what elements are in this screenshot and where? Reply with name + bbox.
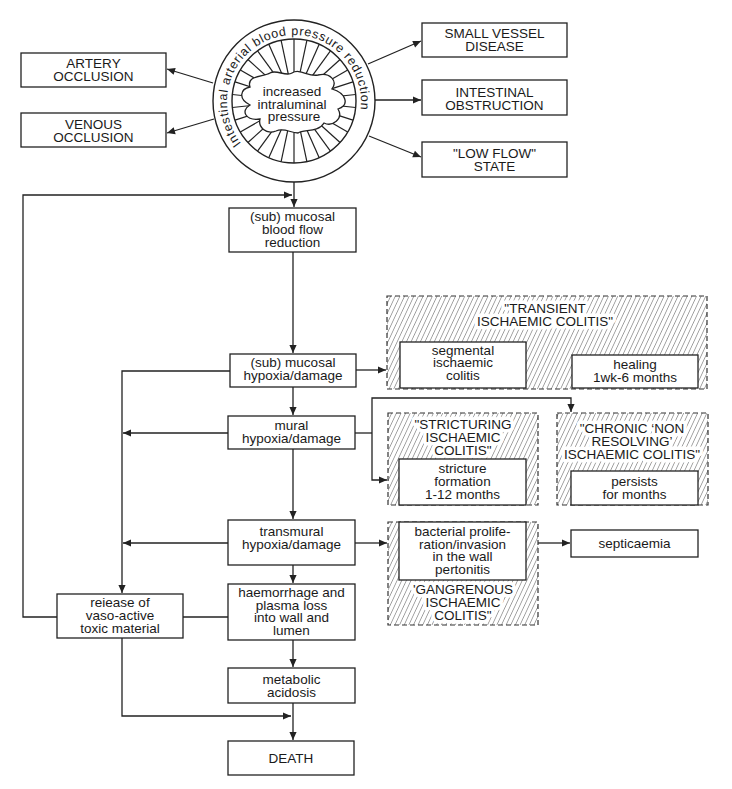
arrow-hypoxia-to-release xyxy=(122,371,230,593)
node-bacterial-proliferation: bacterial prolife-ration/invasionin the … xyxy=(399,522,526,580)
node-mucosal-hypoxia: (sub) mucosalhypoxia/damage xyxy=(230,354,356,387)
node-transmural-hypoxia: transmuralhypoxia/damage xyxy=(228,520,355,565)
intestine-cross-section-circle: Intestinal arterial blood pressure reduc… xyxy=(213,20,375,182)
svg-text:(sub) mucosalhypoxia/damage: (sub) mucosalhypoxia/damage xyxy=(243,355,342,383)
arrow-mural-to-stricturing xyxy=(372,433,387,480)
svg-text:metabolicacidosis: metabolicacidosis xyxy=(263,672,321,700)
node-metabolic-acidosis: metabolicacidosis xyxy=(228,668,355,703)
node-mural-hypoxia: muralhypoxia/damage xyxy=(228,416,355,449)
arrow-circle-to-artery xyxy=(167,69,213,83)
group-chronic-non-resolving-colitis: "CHRONIC ‘NONRESOLVING’ISCHAEMIC COLITIS… xyxy=(557,413,708,505)
node-small-vessel-disease: SMALL VESSELDISEASE xyxy=(422,23,567,57)
ischaemic-colitis-flowchart: Intestinal arterial blood pressure reduc… xyxy=(0,0,732,789)
node-low-flow-state: "LOW FLOW"STATE xyxy=(422,142,567,177)
node-toxic-release: reiease ofvaso-activetoxic material xyxy=(57,594,183,638)
group-transient-ischaemic-colitis: "TRANSIENTISCHAEMIC COLITIS" segmentalis… xyxy=(387,296,707,389)
svg-text:DEATH: DEATH xyxy=(269,751,314,766)
node-artery-occlusion: ARTERYOCCLUSION xyxy=(21,53,166,87)
node-persists: persistsfor months xyxy=(571,471,698,505)
node-segmental-colitis: segmentalischaemiccolitis xyxy=(400,342,526,388)
diagram-canvas: Intestinal arterial blood pressure reduc… xyxy=(0,0,732,789)
node-venous-occlusion: VENOUSOCCLUSION xyxy=(21,113,166,147)
node-death: DEATH xyxy=(228,741,354,775)
group-gangrenous-ischaemic-colitis: bacterial prolife-ration/invasionin the … xyxy=(388,522,538,625)
node-healing: healing1wk-6 months xyxy=(572,355,698,388)
svg-text:reiease ofvaso-activetoxic mat: reiease ofvaso-activetoxic material xyxy=(80,595,160,636)
center-label: increased intraluminal pressure xyxy=(258,84,331,124)
svg-text:VENOUSOCCLUSION: VENOUSOCCLUSION xyxy=(53,117,133,145)
arrow-circle-to-venous xyxy=(167,119,214,133)
node-stricture-formation: strictureformation1-12 months xyxy=(399,459,526,505)
node-intestinal-obstruction: INTESTINALOBSTRUCTION xyxy=(422,80,567,115)
svg-text:INTESTINALOBSTRUCTION: INTESTINALOBSTRUCTION xyxy=(445,85,543,113)
node-septicaemia: septicaemia xyxy=(571,530,698,557)
node-blood-flow-reduction: (sub) mucosalblood flowreduction xyxy=(229,208,356,252)
node-haemorrhage: haemorrhage andplasma lossinto wall andl… xyxy=(228,584,355,640)
arrow-circle-to-low-flow xyxy=(369,136,421,157)
svg-text:septicaemia: septicaemia xyxy=(598,536,671,551)
svg-text:persistsfor months: persistsfor months xyxy=(603,474,667,502)
group-stricturing-ischaemic-colitis: "STRICTURINGISCHAEMICCOLITIS" stricturef… xyxy=(388,413,538,505)
arrow-circle-to-small-vessel xyxy=(368,41,421,64)
